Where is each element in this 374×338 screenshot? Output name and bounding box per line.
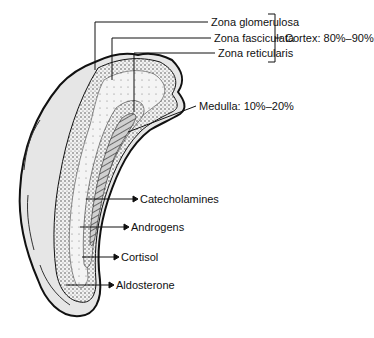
label-zona-glomerulosa: Zona glomerulosa	[211, 16, 299, 28]
arrow-androgens	[124, 224, 129, 230]
label-aldosterone: Aldosterone	[116, 279, 175, 291]
label-cortisol: Cortisol	[121, 251, 158, 263]
label-androgens: Androgens	[131, 221, 184, 233]
label-zona-reticularis: Zona reticularis	[218, 47, 293, 59]
arrow-aldosterone	[109, 282, 114, 288]
label-cortex: Cortex: 80%–90%	[285, 32, 374, 44]
arrow-cortisol	[114, 254, 119, 260]
label-medulla: Medulla: 10%–20%	[199, 100, 294, 112]
label-zona-fasciculata: Zona fasciculata	[214, 32, 294, 44]
label-catecholamines: Catecholamines	[140, 193, 219, 205]
arrow-catecholamines	[133, 196, 138, 202]
